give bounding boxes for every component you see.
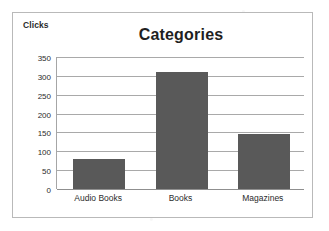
y-axis-tick-label: 0 bbox=[47, 186, 51, 195]
bar-slot bbox=[238, 57, 290, 189]
chart-title: Categories bbox=[61, 26, 301, 44]
x-axis-labels: Audio BooksBooksMagazines bbox=[57, 193, 304, 213]
x-axis-tick-label: Books bbox=[139, 193, 221, 203]
bar-slot bbox=[73, 57, 125, 189]
bar[interactable] bbox=[238, 134, 290, 189]
bar[interactable] bbox=[73, 159, 125, 189]
bar-series bbox=[58, 57, 305, 189]
y-axis-tick-label: 350 bbox=[38, 54, 51, 63]
y-axis-tick-label: 100 bbox=[38, 148, 51, 157]
bar-slot bbox=[156, 57, 208, 189]
bar-chart: Clicks Categories 350300250200150100500 … bbox=[12, 12, 313, 218]
y-axis-tick-label: 200 bbox=[38, 110, 51, 119]
x-axis-tick-label: Audio Books bbox=[57, 193, 139, 203]
bar[interactable] bbox=[156, 72, 208, 189]
y-axis-tick-label: 300 bbox=[38, 72, 51, 81]
y-axis-tick-label: 150 bbox=[38, 129, 51, 138]
plot-area: 350300250200150100500 bbox=[56, 57, 304, 189]
gridline: 0 bbox=[57, 189, 304, 190]
y-axis-tick-label: 250 bbox=[38, 91, 51, 100]
y-axis-title: Clicks bbox=[23, 20, 49, 30]
x-axis-tick-label: Magazines bbox=[222, 193, 304, 203]
y-axis-tick-label: 50 bbox=[42, 167, 51, 176]
